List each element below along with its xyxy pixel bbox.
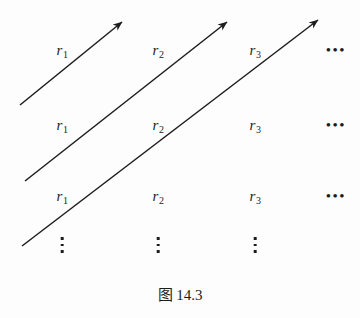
horizontal-ellipsis-row1: ••• bbox=[326, 43, 346, 58]
label-r3-row2: r3 bbox=[250, 118, 261, 133]
label-r1-row1: r1 bbox=[57, 43, 68, 58]
diagonal-arrow-2 bbox=[25, 22, 227, 181]
horizontal-ellipsis-row3: ••• bbox=[326, 189, 346, 204]
vertical-ellipsis-col3 bbox=[254, 237, 257, 253]
label-r1-row3: r1 bbox=[57, 189, 68, 204]
vertical-ellipsis-col2 bbox=[157, 237, 160, 253]
figure-caption: 图 14.3 bbox=[0, 288, 360, 303]
label-r2-row1: r2 bbox=[153, 43, 164, 58]
label-r2-row2: r2 bbox=[153, 118, 164, 133]
figure-container: r1 r2 r3 ••• r1 r2 r3 ••• r1 r2 r3 ••• 图… bbox=[0, 0, 360, 318]
vertical-ellipsis-col1 bbox=[61, 237, 64, 253]
arrow-layer bbox=[0, 0, 360, 318]
diagonal-arrow-1 bbox=[20, 22, 122, 105]
label-r1-row2: r1 bbox=[57, 118, 68, 133]
label-r3-row1: r3 bbox=[250, 43, 261, 58]
horizontal-ellipsis-row2: ••• bbox=[326, 118, 346, 133]
label-r2-row3: r2 bbox=[153, 189, 164, 204]
label-r3-row3: r3 bbox=[250, 189, 261, 204]
